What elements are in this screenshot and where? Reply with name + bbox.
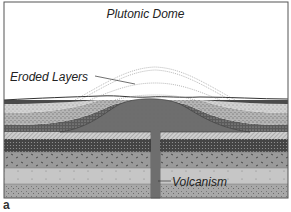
diagram-canvas: Plutonic Dome Eroded Layers Volcanism a bbox=[0, 0, 291, 212]
volcanic-conduit bbox=[151, 130, 160, 198]
lower-strata bbox=[4, 132, 288, 198]
diagram-title: Plutonic Dome bbox=[0, 7, 291, 21]
volcanism-label: Volcanism bbox=[172, 175, 227, 189]
eroded-layers-leader bbox=[95, 76, 135, 84]
panel-letter: a bbox=[3, 198, 10, 212]
geologic-cross-section bbox=[0, 0, 291, 212]
eroded-layers-label: Eroded Layers bbox=[10, 70, 88, 84]
eroded-layers-outline bbox=[75, 67, 235, 100]
